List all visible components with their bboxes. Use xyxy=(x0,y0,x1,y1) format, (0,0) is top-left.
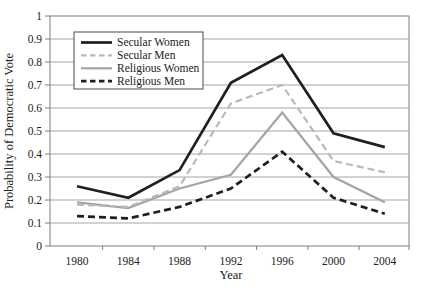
x-tick-label: 1984 xyxy=(117,255,140,267)
legend-label-secular-men: Secular Men xyxy=(117,49,176,61)
plot-root: 00.10.20.30.40.50.60.70.80.9119801984198… xyxy=(28,10,409,267)
x-tick-label: 1980 xyxy=(66,255,89,267)
y-tick-label: 0.1 xyxy=(28,217,43,229)
y-tick-label: 0.5 xyxy=(28,125,43,137)
x-tick-label: 1996 xyxy=(271,255,294,267)
legend-label-secular-women: Secular Women xyxy=(117,36,190,48)
x-tick-label: 1992 xyxy=(219,255,242,267)
legend-label-religious-men: Religious Men xyxy=(117,75,185,88)
y-tick-label: 0.4 xyxy=(28,148,43,160)
legend-label-religious-women: Religious Women xyxy=(117,62,199,75)
y-tick-label: 0.3 xyxy=(28,171,43,183)
x-tick-label: 2000 xyxy=(322,255,345,267)
line-chart: 00.10.20.30.40.50.60.70.80.9119801984198… xyxy=(0,0,422,292)
y-tick-label: 0.9 xyxy=(28,33,43,45)
x-tick-label: 1988 xyxy=(168,255,191,267)
y-tick-label: 0.7 xyxy=(28,79,43,91)
x-tick-label: 2004 xyxy=(373,255,396,267)
y-tick-label: 0.6 xyxy=(28,102,43,114)
y-axis-title: Probability of Democratic Vote xyxy=(2,52,16,209)
chart-figure: 00.10.20.30.40.50.60.70.80.9119801984198… xyxy=(0,0,422,292)
y-tick-label: 0.2 xyxy=(28,194,43,206)
y-tick-label: 0 xyxy=(36,240,42,252)
y-tick-label: 0.8 xyxy=(28,56,43,68)
y-tick-label: 1 xyxy=(36,10,42,22)
x-axis-title: Year xyxy=(219,268,243,282)
